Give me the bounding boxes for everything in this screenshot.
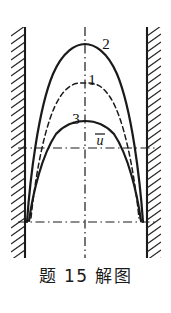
left-wall <box>11 26 25 268</box>
curve-label-1: 1 <box>88 72 96 88</box>
figure-container: 2 1 3 u 题 15 解图 <box>0 0 171 313</box>
right-wall <box>147 26 161 268</box>
right-wall-hatching <box>147 26 161 268</box>
left-wall-hatching <box>11 26 25 268</box>
figure-caption: 题 15 解图 <box>0 262 171 287</box>
curve-label-2: 2 <box>102 36 110 52</box>
mean-velocity-symbol: u <box>97 133 104 148</box>
curve-label-3: 3 <box>72 111 80 127</box>
mean-velocity-label: u <box>95 133 105 148</box>
